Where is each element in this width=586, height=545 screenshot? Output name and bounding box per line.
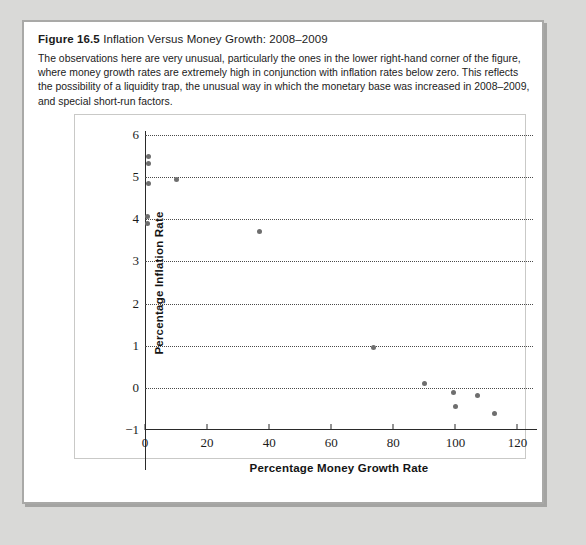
y-tick-label-6: 6	[133, 127, 140, 143]
x-tick-mark-120	[517, 424, 518, 430]
data-point	[146, 181, 151, 186]
gridline-y-3	[145, 261, 533, 262]
y-tick-label-0: 0	[133, 380, 140, 396]
y-tick-label-1: 1	[133, 338, 140, 354]
y-tick-label-2: 2	[133, 296, 140, 312]
gridline-y-6	[145, 135, 533, 136]
x-tick-mark-60	[331, 424, 332, 430]
data-point	[371, 345, 376, 350]
data-point	[145, 214, 150, 219]
x-axis-line	[145, 429, 537, 430]
gridline-y-4	[145, 219, 533, 220]
y-tick-label-3: 3	[133, 253, 140, 269]
y-axis-title: Percentage Inflation Rate	[153, 211, 165, 354]
plot-area: Percentage Inflation Rate Percentage Mon…	[145, 135, 533, 430]
data-point	[453, 404, 458, 409]
x-tick-mark-20	[207, 424, 208, 430]
data-point	[146, 161, 151, 166]
figure-label: Figure 16.5	[38, 33, 100, 45]
y-tick-label--1: −1	[125, 422, 139, 438]
y-tick-label-4: 4	[133, 211, 140, 227]
x-axis-title: Percentage Money Growth Rate	[145, 462, 533, 474]
data-point	[422, 381, 427, 386]
figure-card: Figure 16.5 Inflation Versus Money Growt…	[22, 20, 544, 504]
data-point	[146, 154, 151, 159]
figure-caption-block: Figure 16.5 Inflation Versus Money Growt…	[38, 32, 530, 109]
x-tick-label-0: 0	[142, 435, 149, 451]
data-point	[174, 177, 179, 182]
x-tick-label-100: 100	[446, 435, 466, 451]
x-tick-label-60: 60	[325, 435, 338, 451]
x-tick-mark-40	[269, 424, 270, 430]
gridline-y-1	[145, 346, 533, 347]
chart-container: Percentage Inflation Rate Percentage Mon…	[38, 108, 530, 490]
figure-name: Inflation Versus Money Growth: 2008–2009	[103, 33, 328, 45]
figure-title: Figure 16.5 Inflation Versus Money Growt…	[38, 32, 530, 47]
plot-frame: Percentage Inflation Rate Percentage Mon…	[74, 114, 526, 459]
x-tick-label-80: 80	[387, 435, 400, 451]
x-tick-label-120: 120	[508, 435, 528, 451]
x-tick-mark-100	[455, 424, 456, 430]
gridline-y-0	[145, 388, 533, 389]
gridline-y-2	[145, 304, 533, 305]
data-point	[475, 393, 480, 398]
x-tick-mark-80	[393, 424, 394, 430]
x-tick-label-40: 40	[263, 435, 276, 451]
data-point	[451, 390, 456, 395]
x-tick-mark-0	[145, 424, 146, 430]
x-tick-label-20: 20	[201, 435, 214, 451]
gridline-y-5	[145, 177, 533, 178]
y-tick-label-5: 5	[133, 169, 140, 185]
data-point	[257, 229, 262, 234]
data-point	[492, 411, 497, 416]
figure-description: The observations here are very unusual, …	[38, 52, 530, 109]
data-point	[145, 221, 150, 226]
